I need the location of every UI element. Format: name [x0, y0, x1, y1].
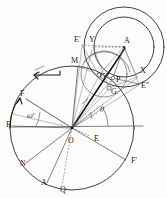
center-O-label: O — [68, 136, 74, 145]
chord-Y-to-G — [93, 47, 109, 88]
ray-O-to-X — [72, 78, 137, 128]
point-E-double-prime-label: E″ — [141, 81, 149, 90]
ray-O-to-N — [26, 128, 72, 163]
figure-canvas: E'YAMXG'PE″GFθω'BOENF'AQ — [0, 0, 167, 198]
point-B-label: B — [6, 120, 11, 129]
angle-omega-prime-label: ω' — [27, 112, 35, 120]
chord-E-prime-to-G-prime — [82, 45, 99, 75]
angle-arc-omega-prime — [36, 112, 40, 126]
lines-from-A — [82, 45, 139, 88]
point-F-label: F — [20, 89, 25, 98]
arrow-tick-mark — [35, 66, 44, 70]
label-layer: E'YAMXG'PE″GFθω'BOENF'AQ — [6, 35, 149, 194]
node-A — [123, 46, 125, 48]
point-Y-label: Y — [89, 35, 95, 44]
point-X-label: X — [140, 66, 146, 75]
ray-O-to-P — [72, 79, 112, 128]
ray-O-to-E-double-prime — [72, 85, 139, 128]
line-A-to-E-double-prime — [124, 47, 139, 84]
ray-O-to-E — [72, 128, 90, 136]
point-G-prime-label: G' — [100, 72, 108, 81]
point-G-label: G — [111, 87, 117, 96]
ray-O-to-A-principal — [72, 48, 125, 128]
point-M-label: M — [71, 56, 78, 65]
point-A-prime-label: A — [41, 178, 47, 187]
point-N-label: N — [20, 159, 26, 168]
ray-O-to-F-prime — [72, 128, 126, 160]
node-P — [111, 76, 115, 80]
line-A-to-E-prime — [82, 45, 124, 47]
point-P-label: P — [116, 75, 121, 84]
node-O — [71, 127, 74, 130]
ray-O-to-M — [72, 66, 78, 128]
point-Q-label: Q — [60, 185, 66, 194]
point-F-prime-label: F' — [131, 156, 137, 165]
angle-arc-theta — [104, 110, 108, 126]
point-E-prime-label: E' — [74, 35, 81, 44]
apex-A-label: A — [124, 36, 130, 45]
chord-upper-B-to-O — [13, 114, 72, 128]
point-E-label: E — [94, 134, 99, 143]
direction-arrows — [10, 66, 60, 128]
arrow-rotation-path — [10, 98, 20, 128]
arrow-rotation-head — [17, 98, 22, 104]
geometric-figure: E'YAMXG'PE″GFθω'BOENF'AQ — [0, 0, 167, 198]
